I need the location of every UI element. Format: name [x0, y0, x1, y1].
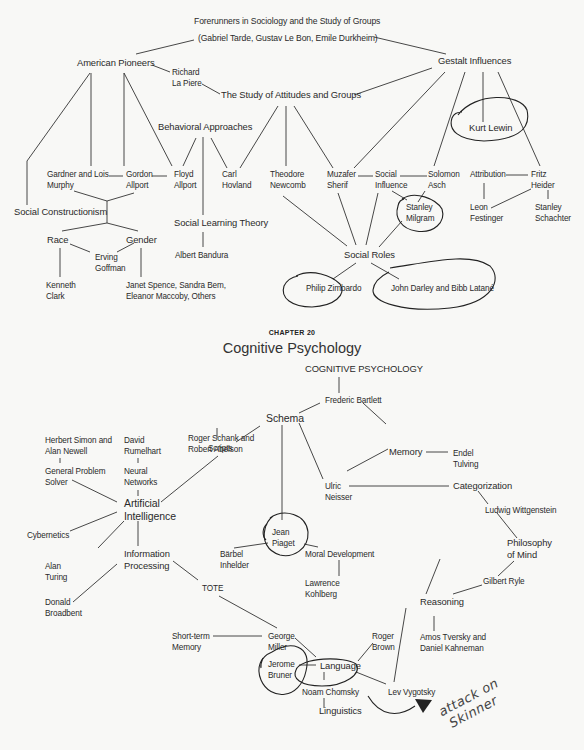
node-solomon-asch: Solomon Asch — [428, 169, 460, 191]
node-gilbert-ryle: Gilbert Ryle — [483, 576, 525, 587]
node-gestalt-influences: Gestalt Influences — [438, 55, 511, 67]
node-social-learning-theory: Social Learning Theory — [174, 217, 268, 229]
node-artificial-intelligence: Artificial Intelligence — [124, 497, 176, 523]
node-philosophy-of-mind: Philosophy of Mind — [507, 537, 552, 561]
node-roger-brown: Roger Brown — [372, 631, 395, 653]
node-social-roles: Social Roles — [344, 249, 395, 261]
node-stanley-milgram: Stanley Milgram — [406, 202, 434, 224]
node-cognitive-psychology: COGNITIVE PSYCHOLOGY — [305, 363, 423, 375]
node-muzafer-sherif: Muzafer Sherif — [327, 169, 356, 191]
node-general-problem-solver: General Problem Solver — [45, 466, 105, 488]
node-carl-hovland: Carl Hovland — [222, 169, 251, 191]
node-alan-turing: Alan Turing — [45, 561, 67, 583]
node-jerome-bruner: Jerome Bruner — [268, 659, 295, 681]
node-behavioral-approaches: Behavioral Approaches — [158, 121, 252, 133]
node-linguistics: Linguistics — [319, 705, 362, 717]
node-jean-piaget: Jean Piaget — [272, 527, 295, 549]
node-short-term-memory: Short-term Memory — [172, 631, 210, 653]
node-memory: Memory — [389, 446, 422, 458]
node-neural-networks: Neural Networks — [124, 466, 157, 488]
node-lawrence-kohlberg: Lawrence Kohlberg — [305, 578, 340, 600]
node-donald-broadbent: Donald Broadbent — [45, 597, 82, 619]
node-darley-latane: John Darley and Bibb Latané — [391, 283, 494, 294]
node-study-attitudes: The Study of Attitudes and Groups — [221, 89, 361, 101]
node-categorization: Categorization — [453, 480, 512, 492]
chapter-title: Cognitive Psychology — [0, 340, 584, 356]
node-scripts: Scripts — [208, 443, 232, 454]
node-theodore-newcomb: Theodore Newcomb — [270, 169, 306, 191]
arrowhead-icon — [415, 699, 432, 713]
node-cybernetics: Cybernetics — [27, 530, 69, 541]
node-forerunners: Forerunners in Sociology and the Study o… — [194, 16, 380, 27]
node-ludwig-wittgenstein: Ludwig Wittgenstein — [485, 505, 556, 516]
node-kurt-lewin: Kurt Lewin — [469, 122, 512, 134]
node-gender: Gender — [126, 234, 157, 246]
node-murphy: Gardner and Lois Murphy — [47, 169, 109, 191]
node-tversky-kahneman: Amos Tversky and Daniel Kahneman — [420, 632, 486, 654]
node-attribution: Attribution — [470, 169, 506, 180]
node-forerunners-names: (Gabriel Tarde, Gustav Le Bon, Emile Dur… — [198, 33, 378, 44]
node-endel-tulving: Endel Tulving — [453, 448, 478, 470]
node-moral-development: Moral Development — [305, 549, 374, 560]
node-gender-names: Janet Spence, Sandra Bem, Eleanor Maccob… — [126, 280, 226, 302]
node-richard-lapiere: Richard La Piere — [172, 67, 202, 89]
node-race: Race — [47, 234, 69, 246]
node-philip-zimbardo: Philip Zimbardo — [306, 283, 361, 294]
node-reasoning: Reasoning — [420, 596, 464, 608]
node-ulric-neisser: Ulric Neisser — [325, 481, 352, 503]
node-gordon-allport: Gordon Allport — [126, 169, 153, 191]
node-american-pioneers: American Pioneers — [77, 57, 155, 69]
node-stanley-schachter: Stanley Schachter — [535, 202, 571, 224]
node-noam-chomsky: Noam Chomsky — [302, 687, 359, 698]
chapter-label: CHAPTER 20 — [0, 329, 584, 336]
node-simon-newell: Herbert Simon and Alan Newell — [45, 435, 112, 457]
node-frederic-bartlett: Frederic Bartlett — [325, 395, 382, 406]
node-social-influence: Social Influence — [375, 169, 407, 191]
node-fritz-heider: Fritz Heider — [531, 169, 555, 191]
node-kenneth-clark: Kenneth Clark — [46, 280, 76, 302]
node-george-miller: George Miller — [268, 631, 295, 653]
concept-map-page: Forerunners in Sociology and the Study o… — [0, 0, 584, 750]
node-erving-goffman: Erving Goffman — [95, 252, 126, 274]
node-language: Language — [320, 660, 361, 672]
node-leon-festinger: Leon Festinger — [470, 202, 503, 224]
node-barbel-inhelder: Bärbel Inhelder — [220, 549, 249, 571]
node-schema: Schema — [266, 412, 304, 425]
node-information-processing: Information Processing — [124, 548, 170, 572]
node-lev-vygotsky: Lev Vygotsky — [388, 687, 435, 698]
node-floyd-allport: Floyd Allport — [174, 169, 197, 191]
node-social-constructionism: Social Constructionism — [14, 206, 107, 218]
node-tote: TOTE — [202, 583, 223, 594]
node-david-rumelhart: David Rumelhart — [124, 435, 161, 457]
node-albert-bandura: Albert Bandura — [175, 250, 228, 261]
